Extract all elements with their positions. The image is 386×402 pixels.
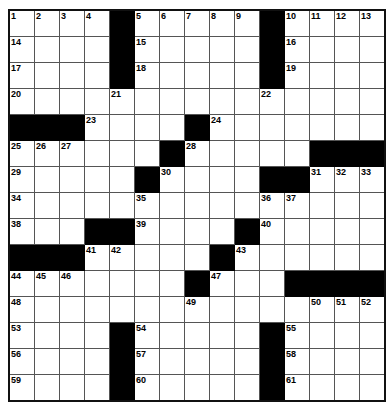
crossword-cell[interactable] (60, 375, 85, 402)
crossword-cell[interactable]: 7 (185, 10, 210, 37)
crossword-cell[interactable] (335, 245, 360, 271)
crossword-cell[interactable] (85, 167, 110, 193)
crossword-cell[interactable]: 43 (235, 245, 260, 271)
crossword-cell[interactable] (360, 63, 386, 89)
crossword-cell[interactable]: 18 (135, 63, 160, 89)
crossword-cell[interactable] (135, 115, 160, 141)
crossword-cell[interactable] (60, 167, 85, 193)
crossword-cell[interactable] (110, 167, 135, 193)
crossword-cell[interactable]: 8 (210, 10, 235, 37)
crossword-cell[interactable] (185, 63, 210, 89)
crossword-cell[interactable] (310, 323, 335, 349)
crossword-cell[interactable] (185, 89, 210, 115)
crossword-cell[interactable]: 60 (135, 375, 160, 402)
crossword-cell[interactable] (310, 375, 335, 402)
crossword-cell[interactable] (260, 141, 285, 167)
crossword-cell[interactable] (335, 115, 360, 141)
crossword-cell[interactable] (310, 37, 335, 63)
crossword-cell[interactable]: 59 (9, 375, 35, 402)
crossword-cell[interactable] (285, 245, 310, 271)
crossword-cell[interactable] (160, 271, 185, 297)
crossword-cell[interactable]: 35 (135, 193, 160, 219)
crossword-cell[interactable]: 36 (260, 193, 285, 219)
crossword-cell[interactable]: 41 (85, 245, 110, 271)
crossword-cell[interactable]: 48 (9, 297, 35, 323)
crossword-cell[interactable]: 47 (210, 271, 235, 297)
crossword-cell[interactable] (110, 297, 135, 323)
crossword-cell[interactable]: 1 (9, 10, 35, 37)
crossword-cell[interactable] (310, 63, 335, 89)
crossword-cell[interactable] (85, 141, 110, 167)
crossword-cell[interactable] (135, 89, 160, 115)
crossword-cell[interactable] (285, 219, 310, 245)
crossword-cell[interactable] (360, 349, 386, 375)
crossword-cell[interactable]: 51 (335, 297, 360, 323)
crossword-cell[interactable] (60, 37, 85, 63)
crossword-cell[interactable] (110, 271, 135, 297)
crossword-cell[interactable] (185, 193, 210, 219)
crossword-cell[interactable] (210, 297, 235, 323)
crossword-cell[interactable] (210, 141, 235, 167)
crossword-cell[interactable]: 31 (310, 167, 335, 193)
crossword-cell[interactable]: 55 (285, 323, 310, 349)
crossword-cell[interactable]: 19 (285, 63, 310, 89)
crossword-cell[interactable] (160, 193, 185, 219)
crossword-cell[interactable]: 23 (85, 115, 110, 141)
crossword-cell[interactable] (60, 323, 85, 349)
crossword-cell[interactable]: 30 (160, 167, 185, 193)
crossword-cell[interactable] (60, 219, 85, 245)
crossword-cell[interactable] (260, 115, 285, 141)
crossword-cell[interactable] (185, 37, 210, 63)
crossword-cell[interactable]: 16 (285, 37, 310, 63)
crossword-cell[interactable]: 54 (135, 323, 160, 349)
crossword-cell[interactable] (235, 193, 260, 219)
crossword-cell[interactable]: 34 (9, 193, 35, 219)
crossword-cell[interactable] (210, 349, 235, 375)
crossword-cell[interactable] (335, 63, 360, 89)
crossword-cell[interactable] (310, 193, 335, 219)
crossword-cell[interactable] (160, 375, 185, 402)
crossword-cell[interactable] (185, 375, 210, 402)
crossword-cell[interactable] (160, 37, 185, 63)
crossword-cell[interactable] (135, 141, 160, 167)
crossword-cell[interactable] (85, 375, 110, 402)
crossword-cell[interactable]: 57 (135, 349, 160, 375)
crossword-cell[interactable]: 45 (35, 271, 60, 297)
crossword-cell[interactable] (60, 89, 85, 115)
crossword-cell[interactable] (210, 375, 235, 402)
crossword-cell[interactable] (335, 375, 360, 402)
crossword-cell[interactable] (360, 323, 386, 349)
crossword-cell[interactable] (335, 37, 360, 63)
crossword-cell[interactable] (160, 115, 185, 141)
crossword-cell[interactable]: 24 (210, 115, 235, 141)
crossword-cell[interactable] (160, 89, 185, 115)
crossword-cell[interactable]: 22 (260, 89, 285, 115)
crossword-cell[interactable] (235, 271, 260, 297)
crossword-cell[interactable]: 15 (135, 37, 160, 63)
crossword-cell[interactable]: 29 (9, 167, 35, 193)
crossword-cell[interactable]: 53 (9, 323, 35, 349)
crossword-cell[interactable] (285, 89, 310, 115)
crossword-cell[interactable]: 26 (35, 141, 60, 167)
crossword-cell[interactable] (60, 63, 85, 89)
crossword-cell[interactable] (85, 323, 110, 349)
crossword-cell[interactable]: 61 (285, 375, 310, 402)
crossword-cell[interactable]: 10 (285, 10, 310, 37)
crossword-cell[interactable]: 14 (9, 37, 35, 63)
crossword-cell[interactable]: 27 (60, 141, 85, 167)
crossword-cell[interactable] (160, 323, 185, 349)
crossword-cell[interactable] (35, 349, 60, 375)
crossword-cell[interactable] (185, 323, 210, 349)
crossword-cell[interactable] (135, 271, 160, 297)
crossword-cell[interactable] (160, 297, 185, 323)
crossword-cell[interactable]: 44 (9, 271, 35, 297)
crossword-cell[interactable]: 39 (135, 219, 160, 245)
crossword-cell[interactable] (235, 89, 260, 115)
crossword-cell[interactable] (360, 89, 386, 115)
crossword-cell[interactable] (85, 89, 110, 115)
crossword-cell[interactable]: 20 (9, 89, 35, 115)
crossword-cell[interactable] (210, 167, 235, 193)
crossword-cell[interactable] (160, 63, 185, 89)
crossword-cell[interactable] (360, 193, 386, 219)
crossword-cell[interactable] (135, 297, 160, 323)
